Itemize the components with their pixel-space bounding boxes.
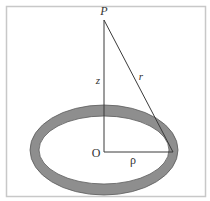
label-origin-o: O [92,146,101,160]
label-point-p: P [99,4,108,18]
ring-field-diagram: P z r O ρ [0,0,210,201]
label-rho: ρ [130,153,136,167]
label-z: z [95,74,101,86]
label-r: r [139,70,144,82]
